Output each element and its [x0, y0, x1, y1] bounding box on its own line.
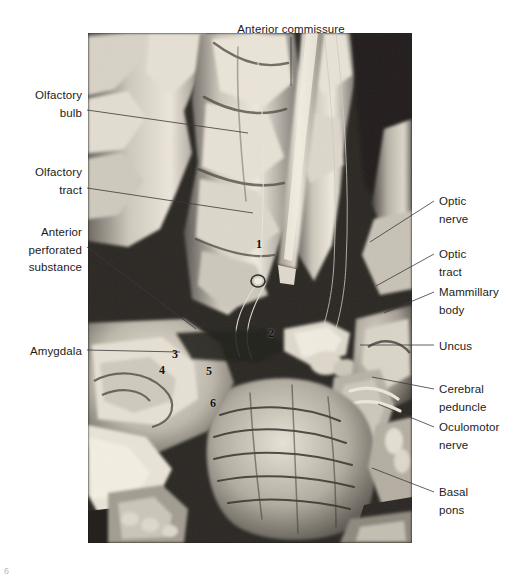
label-olfactory-bulb: Olfactory bulb: [0, 87, 82, 122]
label-anterior-perforated-substance: Anterior perforated substance: [0, 224, 82, 277]
label-cerebral-peduncle: Cerebral peduncle: [439, 381, 525, 416]
label-mammillary-body: Mammillary body: [439, 284, 525, 319]
label-uncus: Uncus: [439, 338, 525, 356]
photo-marker-4: 4: [159, 363, 165, 378]
label-optic-nerve: Optic nerve: [439, 193, 525, 228]
page-number: 6: [4, 566, 9, 576]
label-anterior-commissure: Anterior commissure: [206, 21, 376, 39]
photo-marker-3: 3: [172, 347, 178, 362]
label-oculomotor-nerve: Oculomotor nerve: [439, 419, 525, 454]
photo-marker-5: 5: [206, 364, 212, 379]
photo-marker-2: 2: [268, 326, 274, 341]
label-optic-tract: Optic tract: [439, 246, 525, 281]
photograph-canvas: [88, 33, 412, 543]
anatomy-figure: 1 2 3 4 5 6 Anterior commissure Olfact: [0, 0, 526, 578]
label-amygdala: Amygdala: [0, 343, 82, 361]
photo-marker-1: 1: [256, 237, 262, 252]
photo-marker-6: 6: [210, 396, 216, 411]
dissection-photograph: 1 2 3 4 5 6: [88, 33, 412, 543]
label-olfactory-tract: Olfactory tract: [0, 164, 82, 199]
label-basal-pons: Basal pons: [439, 484, 525, 519]
